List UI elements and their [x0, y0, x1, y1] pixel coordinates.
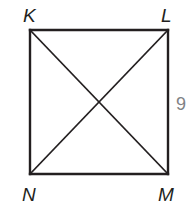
vertex-label-n: N [22, 184, 36, 205]
vertex-label-k: K [23, 5, 37, 26]
square-diagram: K L N M 9 [0, 0, 196, 211]
vertex-label-m: M [158, 184, 174, 205]
vertex-label-l: L [161, 5, 172, 26]
diagonals [30, 30, 168, 174]
side-length-label-lm: 9 [176, 94, 186, 114]
